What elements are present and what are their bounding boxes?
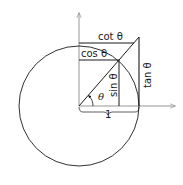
angle-arc-icon	[89, 96, 94, 107]
label-cos: cos θ	[81, 48, 107, 59]
label-tan: tan θ	[142, 62, 153, 88]
label-angle: θ	[98, 91, 104, 102]
label-radius: 1	[105, 109, 111, 120]
label-cot: cot θ	[98, 31, 123, 42]
unit-circle-diagram: cot θ cos θ sin θ tan θ θ 1	[0, 0, 183, 185]
label-sin: sin θ	[108, 73, 119, 97]
